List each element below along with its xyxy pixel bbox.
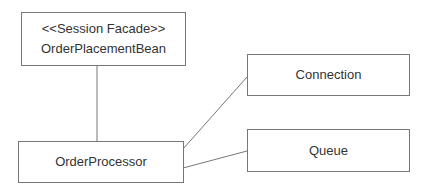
edge-processor-connection — [183, 77, 247, 149]
node-order-placement-bean: <<Session Facade>> OrderPlacementBean — [21, 12, 186, 66]
class-name: Queue — [309, 141, 348, 161]
class-name: OrderProcessor — [55, 152, 147, 172]
class-name: Connection — [296, 65, 362, 85]
node-queue: Queue — [247, 129, 410, 172]
edge-processor-queue — [183, 151, 247, 168]
stereotype-label: <<Session Facade>> — [42, 19, 166, 39]
class-name: OrderPlacementBean — [41, 39, 166, 59]
node-connection: Connection — [247, 54, 410, 96]
node-order-processor: OrderProcessor — [18, 141, 184, 183]
